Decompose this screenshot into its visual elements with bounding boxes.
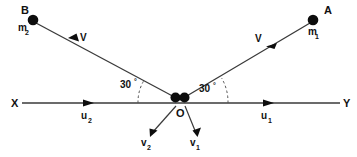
axis-vector-label-u2: u: [81, 110, 87, 121]
left-trajectory-line: [36, 23, 180, 100]
point-label-a: A: [324, 4, 332, 16]
outgoing-vector-subscript-v2: 2: [147, 144, 151, 151]
origin-label-o: O: [176, 107, 185, 119]
outgoing-vector-subscript-v1: 1: [196, 144, 200, 151]
body-b-dot: [28, 15, 39, 26]
physics-diagram: X Y B m 2 A m 1 V V 30 ° 30 ° O u 2 u 1 …: [0, 0, 357, 157]
mass-subscript-m2: 2: [25, 29, 29, 36]
axis-label-y: Y: [343, 97, 351, 109]
u1-arrowhead: [263, 100, 274, 107]
v2-arrowhead: [150, 129, 158, 138]
origin-mass-dot-left: [171, 93, 181, 103]
axis-vector-label-u1: u: [261, 110, 267, 121]
angle-label-left: 30: [120, 79, 132, 90]
point-label-b: B: [21, 4, 29, 16]
mass-subscript-m1: 1: [315, 33, 319, 40]
body-a-dot: [308, 15, 319, 26]
u2-arrowhead: [83, 100, 94, 107]
v2-vector-line: [152, 106, 176, 133]
velocity-label-left: V: [80, 32, 87, 43]
origin-mass-dot-right: [180, 93, 190, 103]
axis-vector-subscript-u1: 1: [268, 117, 272, 124]
right-angle-arc: [222, 78, 228, 103]
left-angle-arc: [138, 81, 144, 103]
angle-label-right: 30: [199, 83, 211, 94]
velocity-label-right: V: [255, 33, 262, 44]
axis-vector-subscript-u2: 2: [88, 117, 92, 124]
v1-vector-line: [185, 106, 196, 133]
angle-unit-right: °: [213, 82, 216, 89]
axis-label-x: X: [11, 97, 19, 109]
diagram-canvas: X Y B m 2 A m 1 V V 30 ° 30 ° O u 2 u 1 …: [0, 0, 357, 157]
angle-unit-left: °: [134, 78, 137, 85]
